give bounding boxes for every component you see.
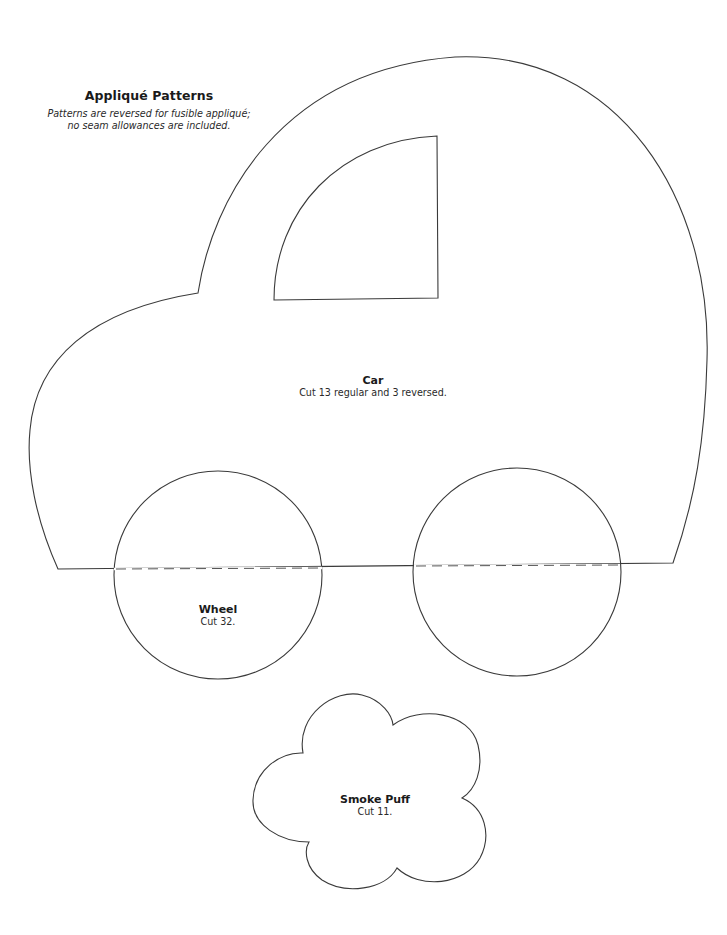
car-window-outline — [274, 136, 438, 300]
smoke-puff-name: Smoke Puff — [340, 793, 410, 806]
page-subtitle-line-2: no seam allowances are included. — [30, 120, 268, 132]
wheel-name: Wheel — [199, 603, 238, 616]
smoke-puff-cut-instruction: Cut 11. — [340, 806, 410, 818]
page-title: Appliqué Patterns — [30, 88, 268, 103]
page-subtitle: Patterns are reversed for fusible appliq… — [30, 108, 268, 131]
car-name: Car — [299, 374, 447, 387]
wheel-label: Wheel Cut 32. — [199, 603, 238, 628]
smoke-puff-label: Smoke Puff Cut 11. — [340, 793, 410, 818]
wheel-right-outline — [413, 468, 621, 676]
page-header: Appliqué Patterns Patterns are reversed … — [30, 88, 268, 131]
car-cut-instruction: Cut 13 regular and 3 reversed. — [299, 387, 447, 399]
page-subtitle-line-1: Patterns are reversed for fusible appliq… — [30, 108, 268, 120]
smoke-puff-outline — [253, 694, 486, 889]
wheel-cut-instruction: Cut 32. — [199, 616, 238, 628]
wheel-left-outline — [114, 471, 322, 679]
car-body-outline — [29, 57, 707, 569]
car-label: Car Cut 13 regular and 3 reversed. — [299, 374, 447, 399]
pattern-page: Appliqué Patterns Patterns are reversed … — [0, 0, 727, 935]
